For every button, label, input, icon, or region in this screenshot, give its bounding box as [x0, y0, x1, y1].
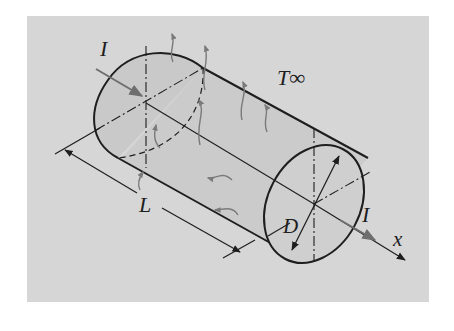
x-axis-label: x	[392, 227, 403, 251]
diameter-label: D	[282, 214, 298, 238]
length-label: L	[138, 192, 151, 217]
ambient-temperature-label: T∞	[277, 65, 305, 90]
cylinder-heat-diagram: I T∞ L D I x	[0, 0, 454, 331]
